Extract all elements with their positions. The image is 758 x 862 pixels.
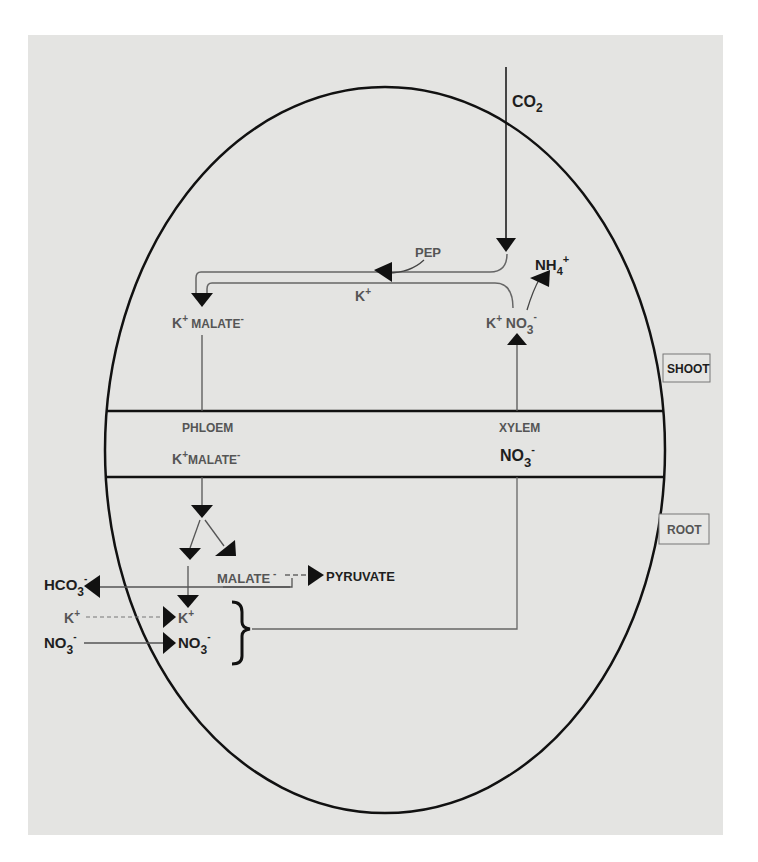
phloem-content-label: K+MALATE-: [172, 449, 240, 467]
diagram-canvas: CO2 PEP K+ NH4+ K+ NO3- K+ MALATE- PHLOE…: [0, 0, 758, 862]
split-right-arrow-icon: [215, 540, 236, 556]
k-arrow-down-icon: [177, 595, 199, 608]
no3-int-label: NO3-: [178, 631, 211, 657]
phloem-arrow-down-icon: [191, 505, 213, 518]
hco3-label: HCO3-: [44, 573, 87, 599]
phloem-label: PHLOEM: [182, 421, 233, 435]
no3-arrow-right-icon: [163, 632, 176, 654]
k-malate-shoot-label: K+ MALATE-: [172, 313, 244, 331]
nh4-curve: [527, 278, 540, 310]
plant-outline: [105, 87, 665, 813]
malate-arrow-down-icon: [191, 293, 213, 307]
shoot-label: SHOOT: [667, 362, 710, 376]
root-label: ROOT: [667, 523, 702, 537]
split-left-line: [190, 520, 200, 548]
split-left-arrow-icon: [179, 548, 201, 560]
split-right-line: [205, 520, 224, 546]
pep-label: PEP: [415, 245, 441, 260]
xylem-content-label: NO3-: [500, 443, 535, 470]
co2-label: CO2: [512, 93, 543, 115]
pipe-top-line: [196, 254, 507, 293]
k-arrow-right-icon: [163, 606, 176, 628]
k-plus-pipe-label: K+: [355, 286, 371, 304]
co2-arrow-down-icon: [496, 238, 516, 252]
pyruvate-label: PYRUVATE: [326, 569, 395, 584]
xylem-label: XYLEM: [499, 421, 540, 435]
xylem-arrow-up-icon: [507, 333, 527, 345]
pep-curve: [388, 260, 424, 273]
k-no3-label: K+ NO3-: [486, 311, 537, 337]
k-ext-label: K+: [64, 608, 80, 626]
pyruvate-arrow-right-icon: [308, 565, 324, 586]
nh4-label: NH4+: [535, 253, 569, 277]
brace-icon: [232, 602, 250, 664]
xylem-return-line: [252, 477, 517, 629]
no3-ext-label: NO3-: [44, 631, 77, 657]
malate-root-label: MALATE -: [217, 568, 276, 586]
k-int-label: K+: [178, 608, 194, 626]
